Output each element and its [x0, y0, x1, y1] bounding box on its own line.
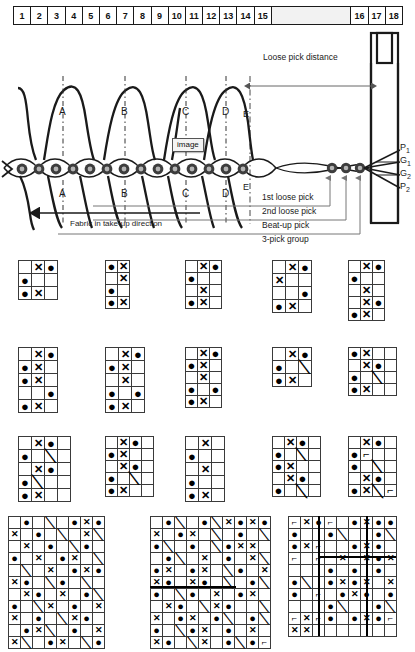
weave-cell	[212, 489, 225, 502]
weave-mark-dot: ●	[19, 274, 31, 286]
ruler-cell-blank[interactable]	[272, 7, 352, 24]
weave-mark-dot: ●	[211, 613, 222, 624]
ruler-cell-5[interactable]: 5	[83, 7, 100, 24]
weave-mark-dot: ●	[349, 565, 360, 576]
weave-mark-x: ✕	[21, 589, 32, 600]
weave-cell: ✕	[361, 309, 373, 321]
weave-cell: ⌐	[385, 613, 397, 625]
weave-cell	[81, 625, 93, 637]
ruler-cell-10[interactable]: 10	[169, 7, 186, 24]
weave-mark-dot: ●	[325, 529, 336, 540]
ruler-cell-1[interactable]: 1	[14, 7, 31, 24]
weave-grid-r1-c1: ✕●●●✕	[18, 260, 58, 300]
e-marker-bottom: E	[243, 182, 249, 192]
take-up-direction-label: Fabric in take-up direction	[70, 219, 162, 228]
weave-cell	[235, 601, 247, 613]
weave-cell	[299, 374, 312, 387]
weave-cell	[199, 589, 211, 601]
weave-cell: ●	[186, 297, 198, 309]
weave-mark-x: ✕	[361, 261, 372, 272]
yarn-label-g1: G1	[400, 155, 411, 167]
weave-cell: ●	[21, 517, 33, 529]
yarn-label-g1-sub: 1	[407, 160, 411, 167]
weave-cell: ╱	[259, 577, 271, 589]
weave-cell	[199, 529, 211, 541]
weave-mark-slash: ╱	[259, 553, 270, 564]
ruler-cell-13[interactable]: 13	[220, 7, 237, 24]
weave-cell: ✕	[81, 565, 93, 577]
ruler-cell-8[interactable]: 8	[134, 7, 151, 24]
weave-cell	[32, 274, 45, 287]
weave-cell: ●	[21, 625, 33, 637]
weave-cell: ✕	[301, 625, 313, 637]
weave-cell: ●	[163, 517, 175, 529]
weave-mark-dot: ●	[81, 613, 92, 624]
ruler-cell-15[interactable]: 15	[255, 7, 272, 24]
weave-cell: ✕	[33, 553, 45, 565]
ruler-cell-6[interactable]: 6	[100, 7, 117, 24]
ruler-cell-4[interactable]: 4	[66, 7, 83, 24]
ruler-cell-12[interactable]: 12	[203, 7, 220, 24]
weave-grid-r2-c4: ✕●●╱●✕	[272, 347, 312, 387]
weave-cell	[301, 565, 313, 577]
weave-mark-x: ✕	[32, 361, 44, 373]
weave-cell: ✕	[337, 553, 349, 565]
weave-cell	[45, 553, 57, 565]
weave-mark-x: ✕	[118, 261, 129, 272]
weave-cell	[58, 437, 71, 450]
weave-mark-x: ✕	[286, 374, 298, 386]
weave-mark-dot: ●	[186, 297, 197, 308]
weave-cell: ✕	[286, 300, 299, 313]
weave-cell	[142, 437, 154, 449]
weave-cell	[385, 449, 397, 461]
weave-grid-big-row: ●╱●✕●✕●╱✕╱✕●╱●●✕●✕╱╱✕●✕●✕●╱●╱✕●✕●╱●╱✕●✕✕…	[0, 516, 415, 652]
ruler-cell-14[interactable]: 14	[237, 7, 254, 24]
weave-mark-slash: ╱	[21, 565, 32, 576]
weave-cell: ✕	[211, 589, 223, 601]
yarn-label-g1-text: G	[400, 155, 407, 165]
weave-cell	[349, 625, 361, 637]
ruler-cell-9[interactable]: 9	[152, 7, 169, 24]
weave-mark-dot: ●	[349, 541, 360, 552]
weave-cell	[58, 489, 71, 502]
weave-cell: ●	[187, 625, 199, 637]
weave-cell: ●	[247, 637, 259, 649]
weave-cell	[142, 461, 154, 473]
weave-mark-dot: ●	[297, 437, 308, 448]
arc-letter-c-bottom: C	[182, 188, 189, 199]
weave-mark-dot: ●	[93, 565, 104, 576]
weave-cell: ✕	[9, 637, 21, 649]
yarn-leader-lines	[364, 150, 400, 188]
weave-mark-x: ✕	[119, 400, 131, 412]
weave-cell: ╱	[130, 473, 142, 485]
weave-cell	[81, 553, 93, 565]
weave-cell	[385, 348, 397, 360]
weave-mark-dot: ●	[289, 541, 300, 552]
ruler-cell-16[interactable]: 16	[351, 7, 368, 24]
weave-mark-dot: ●	[373, 297, 384, 308]
weave-mark-slash: ╱	[81, 637, 92, 648]
ruler-cell-3[interactable]: 3	[48, 7, 65, 24]
weave-cell	[187, 601, 199, 613]
ruler-cell-11[interactable]: 11	[186, 7, 203, 24]
weave-cell	[301, 589, 313, 601]
weave-mark-dot: ●	[349, 485, 360, 496]
weave-grid-r1-c2-wrap: ●✕✕●●✕	[105, 260, 130, 309]
weave-cell	[69, 577, 81, 589]
ruler-cell-7[interactable]: 7	[117, 7, 134, 24]
weave-mark-dot: ●	[373, 261, 384, 272]
weave-mark-dot: ●	[106, 449, 117, 460]
ruler-cell-17[interactable]: 17	[369, 7, 386, 24]
weave-grid-r1-c5-wrap: ✕●●✕✕●●✕	[348, 260, 385, 321]
weave-cell: ●	[273, 300, 286, 313]
ruler-cell-18[interactable]: 18	[386, 7, 402, 24]
weave-cell: ●	[373, 297, 385, 309]
ruler-cell-2[interactable]: 2	[31, 7, 48, 24]
weave-cell: ╱	[45, 577, 57, 589]
weave-cell: ╱	[259, 613, 271, 625]
weave-mark-dot: ●	[223, 541, 234, 552]
weave-cell: ●	[106, 261, 118, 273]
weave-mark-dot: ●	[69, 565, 80, 576]
weave-mark-dot: ●	[273, 374, 285, 386]
weave-cell	[32, 387, 45, 400]
